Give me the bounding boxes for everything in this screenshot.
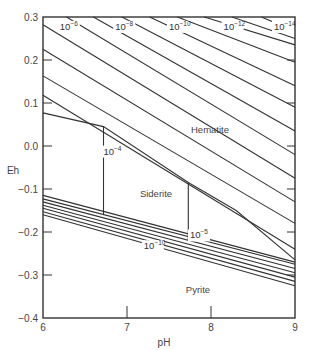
- boundary-line: [43, 49, 295, 202]
- eh-ph-diagram: 67890.30.20.10.0−0.1−0.2−0.3−0.4 10−610−…: [0, 0, 309, 350]
- boundary-line: [43, 113, 295, 260]
- x-tick-label: 7: [124, 322, 130, 333]
- region-label-hematite: Hematite: [191, 124, 229, 135]
- y-tick-label: −0.3: [18, 270, 38, 281]
- boundary-line: [67, 17, 296, 155]
- chart-labels: 10−610−810−1010−1210−1410−410−510−10: [58, 20, 296, 252]
- boundary-line: [43, 199, 295, 264]
- boundary-line: [122, 17, 295, 107]
- boundary-line: [43, 208, 295, 277]
- x-tick-label: 9: [292, 322, 298, 333]
- boundary-line: [43, 76, 295, 224]
- y-axis-title: Eh: [7, 165, 19, 176]
- region-label-pyrite: Pyrite: [186, 284, 210, 295]
- y-tick-label: −0.2: [18, 227, 38, 238]
- plot-frame: [43, 17, 295, 318]
- boundary-line: [43, 212, 295, 282]
- y-tick-label: 0.2: [24, 55, 38, 66]
- region-label-siderite: Siderite: [140, 188, 172, 199]
- plot-border: [43, 17, 295, 318]
- y-tick-label: 0.1: [24, 98, 38, 109]
- y-tick-label: 0.3: [24, 12, 38, 23]
- boundary-line: [43, 215, 295, 286]
- x-axis-title: pH: [158, 337, 171, 348]
- boundary-line: [43, 95, 295, 249]
- boundary-line: [43, 202, 295, 269]
- x-tick-label: 8: [208, 322, 214, 333]
- y-tick-label: 0.0: [24, 141, 38, 152]
- y-tick-label: −0.1: [18, 184, 38, 195]
- boundary-line: [43, 205, 295, 272]
- y-tick-label: −0.4: [18, 313, 38, 324]
- boundary-lines: [43, 17, 295, 286]
- x-tick-label: 6: [40, 322, 46, 333]
